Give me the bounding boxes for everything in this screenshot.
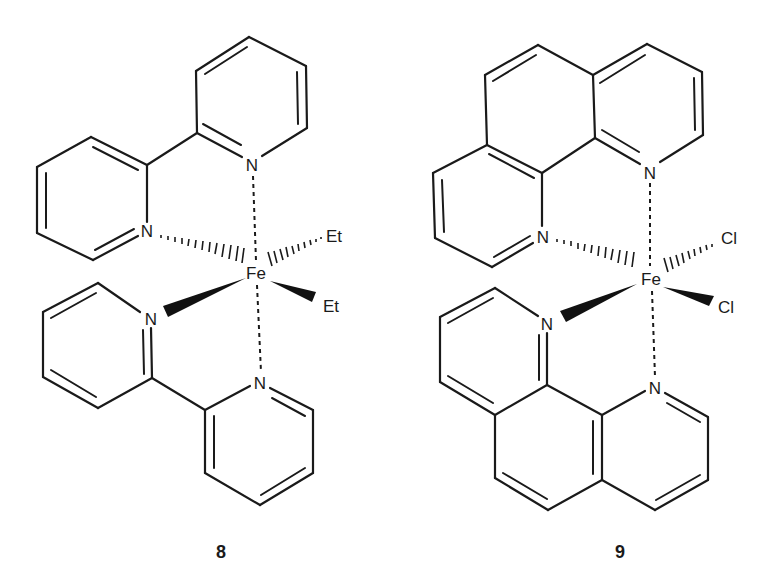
hashed-bond-fe-et	[268, 237, 321, 266]
compound-label-9: 9	[615, 542, 625, 562]
compound-label-8: 8	[216, 542, 226, 562]
phenanthroline-lower	[440, 288, 708, 510]
atom-labels-8: N N Fe Et Et N N	[141, 156, 342, 393]
hashed-bond-fe-cl	[664, 244, 712, 272]
wedge-bond-fe-et	[270, 281, 316, 302]
atom-n-top-9: N	[644, 164, 656, 183]
wedge-bond-fe-n-9	[560, 284, 637, 322]
atom-et-lower-8: Et	[323, 297, 339, 316]
compound-9: N N Fe Cl Cl N N 9	[433, 44, 737, 562]
atom-cl-upper-9: Cl	[721, 229, 737, 248]
atom-n-bottom-8: N	[254, 374, 266, 393]
atom-n-bottom-9: N	[649, 379, 661, 398]
atom-fe-9: Fe	[641, 270, 661, 289]
fe-coordination-8	[161, 176, 321, 372]
atom-et-upper-8: Et	[326, 227, 342, 246]
wedge-bond-fe-cl	[663, 287, 714, 306]
atom-n-top-8: N	[246, 156, 258, 175]
atom-n-left-upper-9: N	[537, 228, 549, 247]
hashed-bond-n-fe	[161, 235, 244, 263]
bipyridine-upper	[37, 37, 307, 260]
atom-labels-9: N N Fe Cl Cl N N	[537, 164, 737, 398]
atom-n-left-lower-9: N	[541, 315, 553, 334]
atom-n-left-lower-8: N	[145, 310, 157, 329]
compound-8: N N Fe Et Et N N 8	[37, 37, 342, 562]
atom-n-left-upper-8: N	[141, 222, 153, 241]
phenanthroline-upper	[433, 44, 703, 267]
atom-cl-lower-9: Cl	[718, 298, 734, 317]
hashed-bond-n-fe-9	[557, 239, 634, 267]
chemical-figure: N N Fe Et Et N N 8	[0, 0, 762, 588]
fe-coordination-9	[557, 183, 714, 377]
wedge-bond-fe-n	[163, 278, 246, 317]
atom-fe-8: Fe	[246, 264, 266, 283]
bipyridine-lower	[43, 283, 313, 505]
